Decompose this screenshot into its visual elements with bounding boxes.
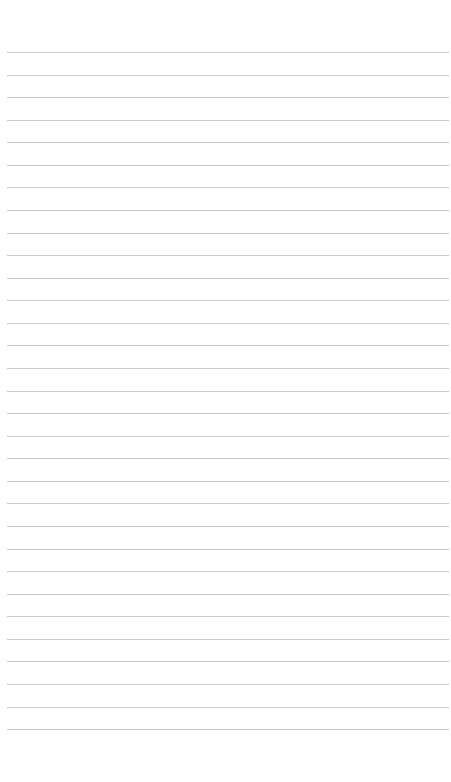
ruled-line: [7, 255, 449, 256]
ruled-line: [7, 684, 449, 685]
ruled-line: [7, 300, 449, 301]
ruled-line: [7, 526, 449, 527]
ruled-line: [7, 549, 449, 550]
ruled-line: [7, 52, 449, 53]
ruled-line: [7, 233, 449, 234]
ruled-line: [7, 120, 449, 121]
ruled-line: [7, 391, 449, 392]
ruled-line: [7, 571, 449, 572]
ruled-line: [7, 368, 449, 369]
ruled-line: [7, 503, 449, 504]
ruled-line: [7, 729, 449, 730]
ruled-line: [7, 436, 449, 437]
ruled-line: [7, 210, 449, 211]
ruled-line: [7, 187, 449, 188]
ruled-line: [7, 707, 449, 708]
ruled-line: [7, 323, 449, 324]
ruled-line: [7, 345, 449, 346]
ruled-line: [7, 413, 449, 414]
ruled-line: [7, 639, 449, 640]
ruled-line: [7, 75, 449, 76]
ruled-line: [7, 616, 449, 617]
ruled-line: [7, 97, 449, 98]
ruled-line: [7, 661, 449, 662]
ruled-line: [7, 481, 449, 482]
ruled-line: [7, 458, 449, 459]
ruled-line: [7, 278, 449, 279]
ruled-line: [7, 142, 449, 143]
ruled-line: [7, 594, 449, 595]
ruled-line: [7, 165, 449, 166]
lined-paper-page: [0, 0, 451, 782]
